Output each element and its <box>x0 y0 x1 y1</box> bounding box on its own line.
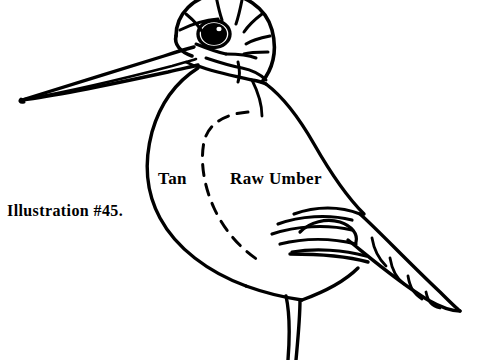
head-stripe-6 <box>246 36 270 44</box>
legs-group <box>286 296 300 360</box>
head-stripe-11 <box>238 62 240 82</box>
eye-group <box>198 21 230 48</box>
leg-front <box>286 296 289 360</box>
belly-outline <box>246 286 302 300</box>
tail-lower-edge <box>348 240 460 311</box>
tan-region-label: Tan <box>158 170 187 187</box>
head-stripe-9 <box>226 54 256 58</box>
leg-back <box>296 300 300 360</box>
head-stripe-4 <box>236 0 242 24</box>
head-stripe-3 <box>216 0 222 20</box>
neck-crease <box>252 80 262 116</box>
raw-umber-region-label: Raw Umber <box>230 170 322 187</box>
wing-primary-2 <box>272 227 352 234</box>
head-stripe-7 <box>244 52 268 54</box>
back-outline <box>266 84 364 214</box>
undertail-line <box>302 268 358 300</box>
head-cheek-line <box>198 66 266 84</box>
wing-upper-edge <box>294 208 360 214</box>
head-outline <box>176 0 274 82</box>
eye-highlight <box>216 27 221 31</box>
wing-group <box>272 208 368 262</box>
eye-pupil <box>201 23 227 45</box>
tail-group <box>302 214 460 311</box>
caption-illustration-number: Illustration #45. <box>7 203 123 219</box>
wing-primary-3 <box>280 240 356 245</box>
head-stripe-5 <box>244 14 262 32</box>
illustration-page: Illustration #45. Tan Raw Umber <box>0 0 477 360</box>
